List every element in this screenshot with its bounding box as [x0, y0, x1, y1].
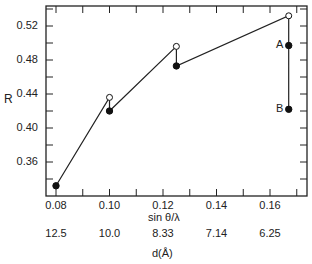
x-tick-label-secondary: 12.5 — [45, 228, 66, 239]
x-tick-label: 0.16 — [259, 200, 280, 211]
x-axis-label: sin θ/λ — [148, 212, 180, 223]
y-tick-label: 0.48 — [4, 54, 38, 65]
data-point-open — [173, 43, 179, 49]
data-point-filled — [53, 183, 59, 189]
data-point-filled — [286, 106, 292, 112]
data-point-open — [286, 13, 292, 19]
data-point-open — [107, 94, 113, 100]
annotation-a: A — [276, 39, 283, 50]
x-tick-label: 0.12 — [152, 200, 173, 211]
plot-frame — [46, 6, 307, 196]
y-tick-label: 0.40 — [4, 122, 38, 133]
x-tick-label: 0.08 — [45, 200, 66, 211]
y-tick-label: 0.52 — [4, 20, 38, 31]
annotation-b: B — [276, 103, 283, 114]
y-tick-label: 0.36 — [4, 156, 38, 167]
y-axis-label: R — [4, 94, 13, 105]
data-line — [56, 16, 289, 186]
data-point-filled — [286, 42, 292, 48]
data-point-filled — [173, 63, 179, 69]
x-tick-label-secondary: 6.25 — [259, 228, 280, 239]
x-tick-label-secondary: 8.33 — [152, 228, 173, 239]
x-axis-secondary-label: d(Å) — [152, 248, 173, 259]
chart-plot-area — [0, 0, 312, 264]
data-point-filled — [106, 108, 112, 114]
x-tick-label-secondary: 7.14 — [206, 228, 227, 239]
x-tick-label-secondary: 10.0 — [99, 228, 120, 239]
x-tick-label: 0.14 — [206, 200, 227, 211]
x-tick-label: 0.10 — [99, 200, 120, 211]
